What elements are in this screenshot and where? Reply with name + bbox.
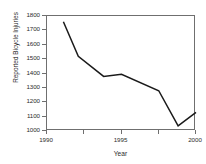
y-tick-mark — [42, 15, 46, 16]
x-tick-mark — [195, 130, 196, 134]
y-tick-mark — [42, 116, 46, 117]
plot-area — [46, 15, 195, 130]
y-tick-mark — [42, 87, 46, 88]
data-line-svg — [47, 16, 196, 131]
x-axis-title: Year — [46, 150, 195, 157]
x-tick-label: 2000 — [180, 137, 206, 143]
x-tick-mark — [83, 130, 84, 134]
x-tick-mark — [46, 130, 47, 134]
y-tick-mark — [42, 101, 46, 102]
data-series-line — [63, 22, 196, 126]
y-tick-label: 1200 — [14, 98, 40, 104]
x-tick-label: 1990 — [31, 137, 61, 143]
x-tick-label: 1995 — [106, 137, 136, 143]
y-tick-mark — [42, 58, 46, 59]
x-tick-mark — [121, 130, 122, 134]
y-axis-title: Reported Bicycle Injuries — [12, 0, 19, 96]
y-tick-label: 1100 — [14, 113, 40, 119]
y-tick-mark — [42, 29, 46, 30]
x-tick-mark — [158, 130, 159, 134]
y-tick-mark — [42, 44, 46, 45]
y-tick-label: 1000 — [14, 127, 40, 133]
y-tick-mark — [42, 73, 46, 74]
bicycle-injuries-line-chart: Reported Bicycle Injuries 199019952000 1… — [0, 0, 206, 164]
